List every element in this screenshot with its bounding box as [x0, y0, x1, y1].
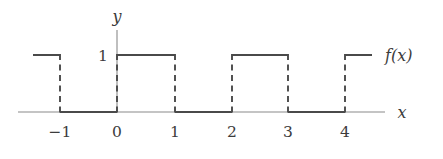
x-tick-label-0: 0 — [112, 123, 122, 141]
curve-label-fx: f(x) — [384, 46, 412, 65]
y-tick-label-1: 1 — [98, 47, 108, 65]
x-tick-labels: −1 0 1 2 3 4 — [49, 123, 350, 141]
x-tick-label-neg1: −1 — [49, 123, 72, 141]
x-tick-label-4: 4 — [340, 123, 350, 141]
x-tick-label-1: 1 — [170, 123, 180, 141]
x-tick-label-2: 2 — [227, 123, 237, 141]
square-wave-figure: −1 0 1 2 3 4 1 y x f(x) — [0, 0, 443, 159]
plot-canvas: −1 0 1 2 3 4 1 y x f(x) — [0, 0, 443, 159]
x-tick-label-3: 3 — [283, 123, 293, 141]
y-axis-label: y — [111, 7, 122, 26]
x-axis-label: x — [397, 103, 406, 122]
